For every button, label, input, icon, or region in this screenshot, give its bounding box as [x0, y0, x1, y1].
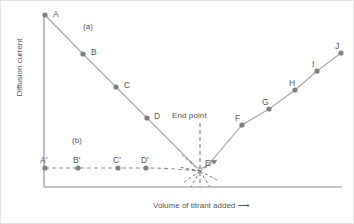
point-label-D-prime: D′ — [141, 156, 149, 165]
right-arrow-icon: ⟶ — [238, 201, 249, 210]
point-label-C: C — [124, 81, 130, 90]
axes — [44, 15, 342, 187]
point-label-D: D — [154, 112, 160, 121]
data-point-B-prime — [75, 165, 80, 170]
data-point-C — [113, 84, 118, 89]
point-label-F: F — [235, 114, 240, 123]
chart-figure: A B C D E F G H I J A′ B′ C′ D′ (a) (b) … — [0, 0, 354, 224]
data-point-D — [144, 115, 149, 120]
series-b-line — [45, 168, 200, 171]
point-label-E: E — [205, 159, 211, 168]
point-label-A-prime: A′ — [40, 156, 47, 165]
y-axis-title: Diffusion current — [15, 20, 24, 116]
data-point-A — [42, 12, 47, 17]
data-point-F — [239, 122, 244, 127]
data-point-I — [314, 68, 319, 73]
data-point-A-prime — [42, 165, 47, 170]
point-label-B-prime: B′ — [73, 156, 80, 165]
data-point-G — [266, 106, 271, 111]
data-point-H — [292, 87, 297, 92]
curve-b-label: (b) — [72, 136, 82, 145]
point-label-A: A — [53, 10, 59, 19]
curve-a-label: (a) — [83, 22, 93, 31]
data-point-C-prime — [115, 165, 120, 170]
point-label-H: H — [289, 79, 295, 88]
data-point-B — [80, 51, 85, 56]
end-point-label: End point — [172, 111, 207, 120]
point-label-C-prime: C′ — [113, 156, 121, 165]
point-label-J: J — [335, 42, 339, 51]
x-axis-title-text: Volume of titrant added — [153, 201, 235, 210]
point-label-B: B — [91, 48, 97, 57]
x-axis-title: Volume of titrant added ⟶ — [153, 201, 249, 210]
point-label-I: I — [312, 60, 314, 69]
data-point-D-prime — [143, 165, 148, 170]
point-label-G: G — [262, 98, 269, 107]
data-point-J — [338, 50, 343, 55]
